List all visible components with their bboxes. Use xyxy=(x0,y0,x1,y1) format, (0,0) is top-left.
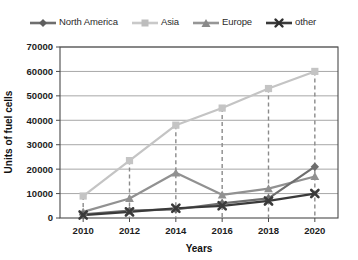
plot-svg: 010000200003000040000500006000070000 201… xyxy=(0,34,358,260)
datapoint-asia-2020 xyxy=(311,68,318,75)
legend-item-europe[interactable]: Europe xyxy=(193,15,252,27)
legend-swatch-north-america xyxy=(30,15,56,27)
gridlines xyxy=(60,47,338,194)
y-tick-label: 40000 xyxy=(27,115,53,126)
legend-item-north-america[interactable]: North America xyxy=(30,15,118,27)
y-tick-label: 0 xyxy=(48,212,53,223)
y-tick-label: 50000 xyxy=(27,90,53,101)
legend-swatch-asia xyxy=(132,15,158,27)
datapoint-asia-2018 xyxy=(265,85,272,92)
datapoint-asia-2010 xyxy=(80,192,87,199)
plot-area-container: 010000200003000040000500006000070000 201… xyxy=(0,34,358,234)
x-axis-ticks: 201020122014201620182020 xyxy=(73,218,326,236)
series-layer xyxy=(79,68,319,219)
datapoint-europe-2014 xyxy=(171,168,180,176)
datapoint-asia-2014 xyxy=(172,122,179,129)
y-tick-label: 20000 xyxy=(27,164,53,175)
x-tick-label: 2010 xyxy=(73,225,94,236)
legend-label-north-america: North America xyxy=(59,16,118,27)
series-line-other xyxy=(83,194,315,215)
x-tick-label: 2014 xyxy=(165,225,187,236)
x-tick-label: 2018 xyxy=(258,225,279,236)
x-tick-label: 2012 xyxy=(119,225,140,236)
y-tick-label: 10000 xyxy=(27,188,53,199)
legend-swatch-europe xyxy=(193,15,219,27)
x-tick-label: 2016 xyxy=(212,225,233,236)
datapoint-europe-2020 xyxy=(310,172,319,180)
chart-legend: North America Asia Europe xyxy=(30,12,350,30)
datapoint-asia-2012 xyxy=(126,157,133,164)
x-tick-label: 2020 xyxy=(304,225,325,236)
legend-item-other[interactable]: other xyxy=(266,15,316,27)
y-tick-label: 60000 xyxy=(27,66,53,77)
y-axis-ticks: 010000200003000040000500006000070000 xyxy=(27,41,60,223)
fuel-cells-line-chart: North America Asia Europe xyxy=(0,0,358,260)
y-tick-label: 70000 xyxy=(27,41,53,52)
datapoint-asia-2016 xyxy=(219,104,226,111)
plot-frame xyxy=(60,47,338,218)
y-axis-title: Units of fuel cells xyxy=(3,90,14,173)
series-line-asia xyxy=(83,71,315,196)
legend-label-asia: Asia xyxy=(161,16,179,27)
datapoint-europe-2012 xyxy=(125,194,134,202)
legend-swatch-other xyxy=(266,15,292,27)
x-axis-title: Years xyxy=(186,243,213,254)
y-tick-label: 30000 xyxy=(27,139,53,150)
legend-label-other: other xyxy=(295,16,316,27)
legend-item-asia[interactable]: Asia xyxy=(132,15,179,27)
legend-label-europe: Europe xyxy=(222,16,252,27)
